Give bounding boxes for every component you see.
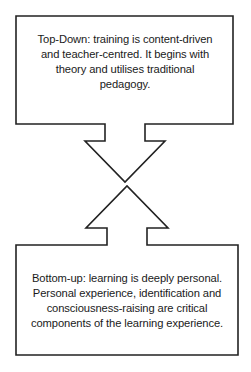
top-down-line: and teacher-centred. It begins with	[20, 47, 230, 62]
top-down-description: Top-Down: training is content-driven and…	[20, 32, 230, 92]
top-down-line: theory and utilises traditional	[20, 62, 230, 77]
top-down-line: pedagogy.	[20, 77, 230, 92]
top-down-line: Top-Down: training is content-driven	[20, 32, 230, 47]
bottom-up-description: Bottom-up: learning is deeply personal. …	[18, 271, 236, 331]
bottom-up-line: Bottom-up: learning is deeply personal.	[18, 271, 236, 286]
bottom-up-line: Personal experience, identification and	[18, 286, 236, 301]
bottom-up-line: consciousness-raising are critical	[18, 301, 236, 316]
bottom-up-line: components of the learning experience.	[18, 316, 236, 331]
